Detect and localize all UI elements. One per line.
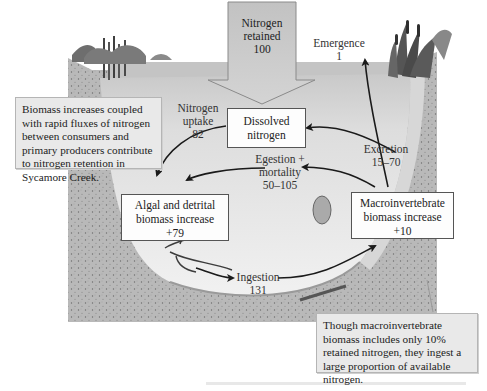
nitrogen-uptake-label: Nitrogen uptake 82 <box>170 102 226 141</box>
macroinvertebrate-node: Macroinvertebrate biomass increase +10 <box>351 192 454 239</box>
right-bank-cattails <box>388 20 452 78</box>
nitrogen-retained-label: Nitrogen retained 100 <box>228 17 296 56</box>
biomass-increase-note: Biomass increases coupled with rapid flu… <box>15 97 162 169</box>
insect-larva <box>313 196 331 224</box>
egestion-mortality-label: Egestion + mortality 50–105 <box>240 153 320 192</box>
emergence-label: Emergence 1 <box>306 37 372 63</box>
nitrogen-cycle-diagram: Nitrogen retained 100 Dissolved nitrogen… <box>0 0 487 391</box>
dissolved-nitrogen-node: Dissolved nitrogen <box>227 108 306 148</box>
macroinvertebrate-ingestion-note: Though macroinvertebrate biomass include… <box>316 313 478 373</box>
excretion-label: Excretion 15–70 <box>356 143 416 169</box>
algal-detrital-node: Algal and detrital biomass increase +79 <box>121 194 229 241</box>
ingestion-label: Ingestion 131 <box>236 271 280 297</box>
